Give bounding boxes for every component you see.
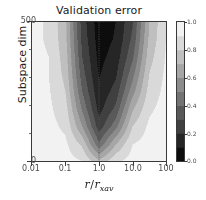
y-tick-minor (29, 133, 31, 134)
y-tick-label-500: 500 (10, 16, 36, 25)
colorbar-tick-label-0.2: 0.2 (187, 130, 206, 137)
chart-figure: Validation error Subspace dim 500 0 0.01… (0, 0, 206, 200)
colorbar-tick-label-0.6: 0.6 (187, 74, 206, 81)
x-tick-label-100: 100 (149, 164, 183, 173)
colorbar-tick-label-1.0: 1.0 (187, 18, 206, 25)
y-tick-minor (29, 105, 31, 106)
x-tick-label-10.0: 10.0 (116, 164, 150, 173)
contour-plot-area (31, 21, 167, 162)
x-axis-label-subscript: xav (100, 184, 114, 193)
colorbar-tick-label-0.4: 0.4 (187, 102, 206, 109)
colorbar-tick-label-0.0: 0.0 (187, 157, 206, 164)
x-axis-label: r/rxav (31, 178, 167, 193)
chart-title: Validation error (31, 4, 167, 17)
y-tick-minor (29, 77, 31, 78)
colorbar-tick-label-0.8: 0.8 (187, 46, 206, 53)
y-tick-minor (29, 49, 31, 50)
x-tick-label-0.1: 0.1 (48, 164, 82, 173)
x-tick-label-1.0: 1.0 (82, 164, 116, 173)
colorbar (176, 21, 185, 162)
x-tick-label-0.01: 0.01 (14, 164, 48, 173)
colorbar-gradient-canvas (177, 22, 184, 161)
x-axis-label-numerator: r (84, 178, 89, 191)
contour-heatmap-canvas (32, 22, 166, 161)
